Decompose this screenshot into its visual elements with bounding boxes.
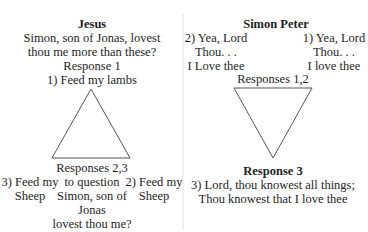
right-reply-line-2: Thou. . . [302,45,366,59]
response-1-text: 1) Feed my lambs [0,73,184,87]
responses-2-3-label: Responses 2,3 [0,161,184,175]
speaker-jesus: Jesus [0,17,184,31]
response-3-line-1: 3) Lord, thou knowest all things; [184,178,362,192]
bottom-center-line-2: Simon, son of [52,189,132,203]
bottom-left-line-2: Sheep [0,189,60,203]
response-3-line-2: Thou knowest that I love thee [184,192,362,206]
left-reply-line-2: Thou. . . [184,45,248,59]
question-line-2: thou me more than these? [0,45,184,59]
speaker-simon-peter: Simon Peter [184,17,368,31]
left-reply-line-1: 2) Yea, Lord [184,31,248,45]
response-3-heading: Response 3 [184,164,362,178]
bottom-center-line-4: lovest thou me? [52,217,132,231]
right-reply-line-3: I love thee [302,59,366,73]
bottom-right-line-2: Sheep [124,189,184,203]
question-line-1: Simon, son of Jonas, lovest [0,31,184,45]
response-1-label: Response 1 [0,59,184,73]
bottom-left-line-1: 3) Feed my [0,175,60,189]
bottom-center-line-3: Jonas [52,203,132,217]
right-reply-line-1: 1) Yea, Lord [302,31,366,45]
bottom-right-line-1: 2) Feed my [124,175,184,189]
responses-1-2-label: Responses 1,2 [184,72,362,86]
left-reply-line-3: I Love thee [184,59,248,73]
bottom-center-line-1: to question [52,175,132,189]
upright-triangle [52,89,130,158]
inverted-triangle [234,88,312,158]
